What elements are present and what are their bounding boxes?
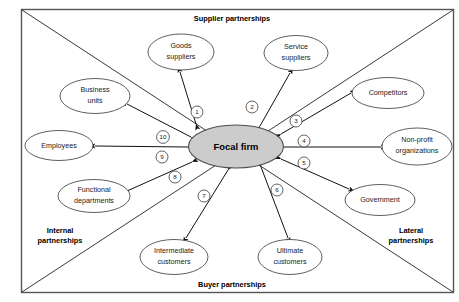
intermediate-customers-label-line2: customers: [157, 257, 191, 266]
connector-badge-4[interactable]: 4: [298, 135, 310, 147]
connector-badge-4-number: 4: [302, 137, 306, 144]
functional-departments-label-line2: departments: [74, 196, 114, 205]
functional-departments-label-line1: Functional: [77, 185, 111, 194]
node-focal-firm[interactable]: Focal firm: [189, 125, 284, 168]
node-competitors[interactable]: Competitors: [352, 78, 424, 109]
competitors-label-line1: Competitors: [369, 88, 408, 97]
connector-badge-9[interactable]: 9: [156, 151, 168, 163]
non-profit-organizations-label-line1: Non-profit: [401, 135, 433, 144]
quadrant-label-buyer: Buyer partnerships: [198, 280, 266, 289]
service-suppliers-label-line1: Service: [284, 42, 308, 51]
node-service-suppliers[interactable]: Service suppliers: [264, 36, 328, 71]
connector-badge-5-number: 5: [302, 159, 306, 166]
connector-badge-2[interactable]: 2: [246, 101, 258, 113]
quadrant-label-lateral-line1: Lateral: [399, 226, 423, 235]
node-non-profit-organizations[interactable]: Non-profit organizations: [382, 128, 452, 165]
node-functional-departments[interactable]: Functional departments: [58, 180, 130, 213]
connector-badge-1-number: 1: [195, 108, 199, 115]
connector-line-9: [95, 146, 188, 147]
connector-badge-10[interactable]: 10: [157, 131, 170, 144]
quadrant-label-lateral: Lateral partnerships: [389, 226, 434, 245]
ultimate-customers-label-line1: Ultimate: [277, 246, 303, 255]
connector-badge-8[interactable]: 8: [169, 171, 181, 183]
intermediate-customers-label-line1: Intermediate: [154, 246, 194, 255]
node-ultimate-customers[interactable]: Ultimate customers: [258, 240, 322, 275]
connector-badge-6[interactable]: 6: [271, 184, 283, 196]
goods-suppliers-label-line1: Goods: [170, 41, 192, 50]
quadrant-label-supplier: Supplier partnerships: [194, 14, 270, 23]
connector-badge-3[interactable]: 3: [290, 115, 302, 127]
connector-badge-7-number: 7: [202, 192, 206, 199]
quadrant-label-internal-line1: Internal: [47, 226, 74, 235]
node-goods-suppliers[interactable]: Goods suppliers: [148, 34, 214, 70]
connector-badge-8-number: 8: [173, 173, 177, 180]
connector-badge-3-number: 3: [294, 117, 298, 124]
connector-badge-7[interactable]: 7: [198, 190, 210, 202]
connector-line-2: [260, 73, 290, 126]
goods-suppliers-label-line2: suppliers: [167, 52, 196, 61]
connector-line-5: [281, 159, 349, 189]
quadrant-label-internal: Internal partnerships: [38, 226, 83, 245]
connector-badge-9-number: 9: [160, 153, 164, 160]
connector-badge-1[interactable]: 1: [191, 106, 203, 118]
node-intermediate-customers[interactable]: Intermediate customers: [140, 240, 208, 275]
node-government[interactable]: Government: [345, 185, 415, 216]
quadrant-label-lateral-line2: partnerships: [389, 236, 434, 245]
connector-badge-5[interactable]: 5: [298, 157, 310, 169]
connector-badge-2-number: 2: [250, 103, 254, 110]
ultimate-customers-label-line2: customers: [273, 257, 307, 266]
diagram-canvas: Focal firm Goods suppliers Service suppl…: [0, 0, 459, 302]
non-profit-organizations-label-line2: organizations: [396, 146, 439, 155]
connector-badge-10-number: 10: [160, 133, 167, 140]
focal-firm-label: Focal firm: [214, 141, 259, 152]
government-label-line1: Government: [360, 195, 400, 204]
partnership-diagram: Focal firm Goods suppliers Service suppl…: [0, 0, 459, 302]
connector-badge-6-number: 6: [275, 186, 279, 193]
business-units-label-line2: units: [87, 96, 103, 105]
node-business-units[interactable]: Business units: [60, 79, 130, 114]
connector-line-6: [261, 167, 288, 238]
service-suppliers-label-line2: suppliers: [282, 53, 311, 62]
quadrant-label-internal-line2: partnerships: [38, 236, 83, 245]
business-units-label-line1: Business: [80, 85, 110, 94]
employees-label-line1: Employees: [41, 141, 77, 150]
node-employees[interactable]: Employees: [25, 131, 93, 161]
